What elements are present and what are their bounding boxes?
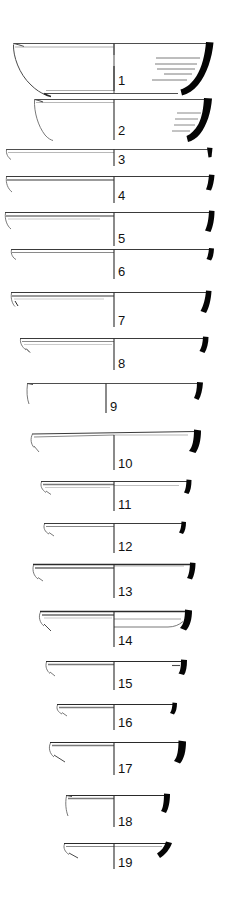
figure-label-4: 4	[118, 189, 125, 202]
figure-3-section-fill	[207, 148, 213, 158]
figure-9-section-fill	[194, 382, 203, 400]
figure-label-8: 8	[118, 357, 125, 370]
figure-label-19: 19	[118, 856, 132, 869]
figure-13-profile	[33, 563, 196, 599]
figure-12-profile	[44, 522, 186, 554]
figure-label-14: 14	[118, 634, 132, 647]
figure-label-15: 15	[118, 677, 132, 690]
figure-1-hatching	[152, 58, 200, 80]
pottery-profile-plate: 1 2 3 4 5 6 7 8 9 10 11 12 13 14 15 16 1…	[0, 0, 225, 903]
figure-2-section-fill	[187, 98, 213, 142]
figure-label-11: 11	[118, 498, 132, 511]
figure-18-section-fill	[161, 794, 170, 814]
figure-5-section-fill	[205, 211, 215, 233]
figure-label-18: 18	[118, 815, 132, 828]
figure-7-profile	[11, 291, 212, 328]
figure-10-profile	[31, 430, 201, 471]
figure-label-2: 2	[118, 124, 125, 137]
figure-11-profile	[41, 480, 192, 512]
figure-15-profile	[46, 660, 187, 691]
figure-4-profile	[6, 175, 215, 204]
figure-17-section-fill	[174, 741, 186, 764]
figure-label-10: 10	[118, 457, 132, 470]
figure-label-13: 13	[118, 585, 132, 598]
figure-1-profile	[13, 42, 213, 97]
figure-8-profile	[20, 337, 209, 371]
figure-label-7: 7	[118, 314, 125, 327]
figure-label-5: 5	[118, 232, 125, 245]
figure-label-12: 12	[118, 540, 132, 553]
figure-14-profile	[39, 610, 192, 648]
figure-label-6: 6	[118, 265, 125, 278]
figure-3-profile	[6, 148, 213, 167]
figure-label-3: 3	[118, 153, 125, 166]
figure-label-1: 1	[118, 74, 125, 87]
figure-14-section-fill	[180, 610, 192, 631]
figure-6-profile	[11, 248, 214, 279]
figure-7-section-fill	[201, 291, 212, 314]
figure-label-17: 17	[118, 762, 132, 775]
figure-label-9: 9	[110, 400, 117, 413]
profile-drawing-canvas	[0, 0, 225, 903]
figure-5-profile	[5, 211, 215, 247]
figure-label-16: 16	[118, 716, 132, 729]
figure-10-section-fill	[189, 430, 201, 454]
figure-16-profile	[57, 703, 177, 731]
